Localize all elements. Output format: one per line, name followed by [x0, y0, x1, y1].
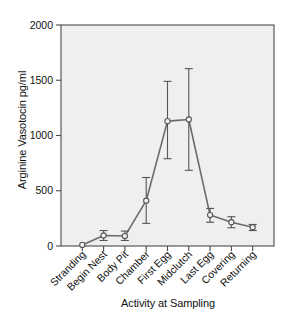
y-tick-label: 500: [35, 184, 53, 196]
y-tick-label: 1000: [30, 129, 54, 141]
data-point-marker: [101, 233, 106, 238]
data-point-marker: [80, 242, 85, 247]
x-axis-tick-labels: StrandingBegin NestBody PitChamberFirst …: [47, 248, 258, 293]
plot-svg: 0500100015002000 StrandingBegin NestBody…: [0, 0, 292, 320]
data-point-marker: [144, 198, 149, 203]
data-point-marker: [250, 225, 255, 230]
data-point-marker: [122, 233, 127, 238]
chart-figure: Arginine Vasotocin pg/ml Activity at Sam…: [0, 0, 292, 320]
data-point-marker: [208, 212, 213, 217]
y-tick-label: 2000: [30, 19, 54, 31]
y-tick-label: 1500: [30, 74, 54, 86]
y-axis-ticks: 0500100015002000: [30, 19, 61, 252]
data-point-marker: [229, 220, 234, 225]
y-tick-label: 0: [47, 240, 53, 252]
data-point-marker: [165, 119, 170, 124]
data-point-marker: [186, 117, 191, 122]
